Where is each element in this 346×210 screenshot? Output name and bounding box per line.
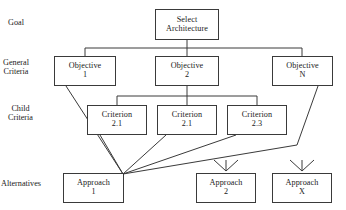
connector-stub-approach-2-1 bbox=[214, 160, 226, 171]
tier-label-child-criteria-line1: Child bbox=[8, 104, 33, 113]
connector-criterion-22-to-approach-1 bbox=[123, 135, 166, 174]
connector-objective-n-to-approach-1 bbox=[123, 86, 318, 174]
tier-label-alternatives-line1: Alternatives bbox=[1, 179, 41, 188]
node-objective-2-line2: 2 bbox=[185, 71, 189, 80]
tier-label-general-criteria: General Criteria bbox=[3, 58, 29, 76]
tier-label-child-criteria-line2: Criteria bbox=[8, 113, 33, 122]
tier-label-alternatives: Alternatives bbox=[1, 179, 41, 188]
connector-criterion-23-to-approach-1 bbox=[123, 135, 236, 174]
connector-stub-approach-x-3 bbox=[302, 160, 314, 171]
connector-stub-approach-2-3 bbox=[226, 160, 238, 171]
connector-stub-approach-x-1 bbox=[290, 160, 302, 171]
node-approach-x[interactable]: Approach X bbox=[272, 173, 332, 203]
node-criterion-2-3-line2: 2.3 bbox=[252, 120, 263, 129]
tier-label-child-criteria: Child Criteria bbox=[8, 104, 33, 122]
node-goal-select-architecture[interactable]: Select Architecture bbox=[155, 9, 219, 40]
node-criterion-2-1[interactable]: Criterion 2.1 bbox=[87, 105, 147, 135]
tier-label-general-criteria-line1: General bbox=[3, 58, 29, 67]
tier-label-goal: Goal bbox=[8, 18, 24, 27]
node-objective-1-line2: 1 bbox=[83, 71, 87, 80]
node-criterion-2-3[interactable]: Criterion 2.3 bbox=[227, 105, 287, 135]
node-approach-1-line2: 1 bbox=[91, 188, 95, 197]
tier-label-general-criteria-line2: Criteria bbox=[3, 67, 29, 76]
node-objective-1[interactable]: Objective 1 bbox=[54, 56, 116, 86]
node-approach-2[interactable]: Approach 2 bbox=[196, 173, 256, 203]
node-approach-2-line2: 2 bbox=[224, 188, 228, 197]
node-objective-n[interactable]: Objective N bbox=[272, 56, 333, 86]
node-objective-n-line2: N bbox=[299, 71, 305, 80]
node-criterion-2-2-line2: 2.1 bbox=[182, 120, 193, 129]
node-objective-2[interactable]: Objective 2 bbox=[155, 56, 219, 86]
connector-criterion-21-to-approach-1 bbox=[100, 135, 123, 174]
node-goal-line2: Architecture bbox=[166, 25, 208, 34]
tier-label-goal-line1: Goal bbox=[8, 18, 24, 27]
node-criterion-2-2[interactable]: Criterion 2.1 bbox=[157, 105, 217, 135]
node-approach-1[interactable]: Approach 1 bbox=[63, 173, 124, 203]
node-approach-x-line2: X bbox=[299, 188, 305, 197]
ahp-hierarchy-diagram: Goal General Criteria Child Criteria Alt… bbox=[0, 0, 346, 210]
node-criterion-2-1-line2: 2.1 bbox=[112, 120, 123, 129]
